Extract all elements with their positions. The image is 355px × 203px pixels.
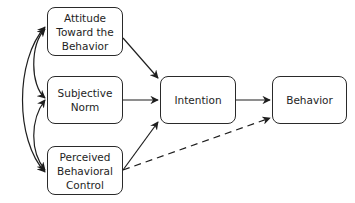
node-pbc-label: Perceived Behavioral Control xyxy=(57,150,113,192)
node-attitude-label: Attitude Toward the Behavior xyxy=(56,11,113,53)
edge-pbc-behavior-dashed xyxy=(123,118,270,170)
node-intention-label: Intention xyxy=(174,93,221,107)
node-behavior: Behavior xyxy=(272,76,347,124)
edge-attitude-norm-correlation xyxy=(34,29,45,98)
edge-pbc-intention xyxy=(123,122,158,170)
node-norm-label: Subjective Norm xyxy=(58,86,113,114)
edge-attitude-pbc-correlation xyxy=(23,27,46,172)
node-attitude: Attitude Toward the Behavior xyxy=(47,7,123,56)
node-behavior-label: Behavior xyxy=(286,93,333,107)
node-intention: Intention xyxy=(160,76,236,124)
node-subjective-norm: Subjective Norm xyxy=(47,76,123,124)
edge-attitude-intention xyxy=(123,38,158,78)
node-perceived-behavioral-control: Perceived Behavioral Control xyxy=(47,146,123,195)
